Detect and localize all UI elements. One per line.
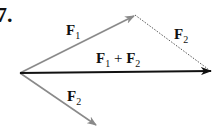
f2-lower-label-sub: 2: [76, 96, 81, 107]
f2-arrow: [20, 73, 96, 125]
sum-label: F1 + F2: [96, 50, 140, 69]
f2-lower-label-text: F: [67, 88, 76, 104]
sum-label-plus: +: [110, 50, 126, 66]
problem-number: 7.: [0, 2, 13, 28]
f1-label: F1: [66, 22, 80, 41]
sum-label-f2-sub: 2: [135, 58, 140, 69]
f1-label-sub: 1: [75, 30, 80, 41]
f2-dotted-line: [135, 15, 208, 69]
vector-addition-diagram: 7. F1 F2 F1 + F2 F2: [0, 0, 215, 128]
sum-label-f1: F: [96, 50, 105, 66]
f2-dotted-label-sub: 2: [183, 34, 188, 45]
f2-dotted-label-text: F: [174, 26, 183, 42]
f2-dotted-label: F2: [174, 26, 188, 45]
resultant-arrow: [20, 71, 211, 73]
sum-label-f2: F: [126, 50, 135, 66]
f2-lower-label: F2: [67, 88, 81, 107]
f1-label-text: F: [66, 22, 75, 38]
